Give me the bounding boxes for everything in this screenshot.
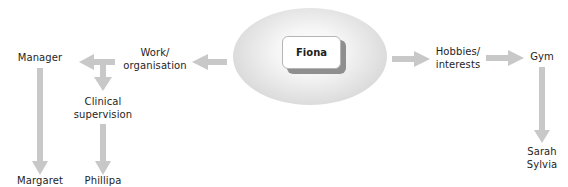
node-work-line1: Work/ [122, 47, 188, 60]
node-hobbies-line1: Hobbies/ [432, 46, 484, 59]
node-gym-label: Gym [530, 51, 554, 62]
node-work-organisation: Work/ organisation [122, 47, 188, 72]
node-phillipa: Phillipa [80, 175, 126, 187]
node-manager: Manager [14, 52, 66, 65]
arrow-hobbies-to-gym [486, 50, 524, 66]
arrow-work-to-manager [79, 54, 115, 70]
arrow-fiona-to-work [192, 54, 227, 70]
node-clinical-supervision: Clinical supervision [72, 96, 134, 121]
node-phillipa-label: Phillipa [85, 175, 122, 186]
node-work-line2: organisation [122, 60, 188, 73]
arrow-fiona-to-hobbies [392, 51, 430, 67]
node-gym: Gym [526, 51, 558, 64]
node-manager-label: Manager [18, 52, 63, 63]
arrows-layer [0, 0, 568, 187]
relationship-diagram: Fiona [0, 0, 568, 187]
node-sarah-sylvia: Sarah Sylvia [522, 146, 562, 171]
arrow-gym-to-sarah-sylvia [534, 67, 550, 143]
node-sarah-line2: Sylvia [522, 159, 562, 172]
node-clinical-line2: supervision [72, 109, 134, 122]
arrow-work-to-clinical [94, 62, 112, 91]
node-margaret-label: Margaret [17, 175, 63, 186]
node-margaret: Margaret [14, 175, 66, 187]
node-clinical-line1: Clinical [72, 96, 134, 109]
node-sarah-line1: Sarah [522, 146, 562, 159]
arrow-manager-to-margaret [32, 68, 48, 175]
node-hobbies-line2: interests [432, 59, 484, 72]
arrow-clinical-to-phillipa [95, 124, 111, 175]
node-hobbies-interests: Hobbies/ interests [432, 46, 484, 71]
